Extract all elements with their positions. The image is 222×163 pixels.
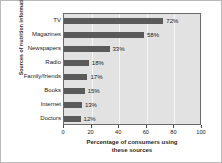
x-axis-title-line-2: these sources: [49, 146, 215, 154]
x-axis-tick: [91, 125, 92, 128]
x-axis-tick: [146, 125, 147, 128]
category-label: Newspapers: [9, 45, 61, 51]
category-label: Magazines: [9, 31, 61, 37]
bar: [64, 88, 85, 94]
bar: [64, 32, 144, 38]
x-axis-tick-label: 60: [143, 129, 149, 135]
bar: [64, 116, 81, 122]
x-axis: 020406080100: [63, 125, 201, 139]
x-axis-tick-label: 20: [87, 129, 93, 135]
bar-value-label: 18%: [92, 60, 104, 66]
x-axis-tick-label: 80: [170, 129, 176, 135]
x-axis-title-line-1: Percentage of consumers using: [49, 138, 215, 146]
x-axis-tick-label: 100: [196, 129, 205, 135]
category-label: TV: [9, 17, 61, 23]
bar: [64, 60, 89, 66]
x-axis-tick: [201, 125, 202, 128]
bar-value-label: 13%: [85, 102, 97, 108]
bar: [64, 18, 163, 24]
bar-value-label: 15%: [88, 88, 100, 94]
x-axis-title: Percentage of consumers using these sour…: [49, 138, 215, 154]
bar-value-label: 33%: [113, 46, 125, 52]
gridline: [174, 14, 175, 124]
bar-value-label: 72%: [166, 18, 178, 24]
category-label: Internet: [9, 101, 61, 107]
x-axis-tick-label: 40: [115, 129, 121, 135]
category-label: Books: [9, 87, 61, 93]
x-axis-tick: [173, 125, 174, 128]
category-label: Doctors: [9, 115, 61, 121]
y-axis-category-labels: TVMagazinesNewspapersRadioFamily/friends…: [9, 13, 61, 125]
bar-value-label: 17%: [90, 74, 102, 80]
plot-area: 72%58%33%18%17%15%13%12%: [63, 13, 201, 125]
bar: [64, 74, 87, 80]
gridline: [119, 14, 120, 124]
bar: [64, 102, 82, 108]
x-axis-tick-label: 0: [61, 129, 64, 135]
x-axis-tick: [63, 125, 64, 128]
bar-chart-figure: Sources of nutrition information TVMagaz…: [0, 0, 222, 163]
gridline: [147, 14, 148, 124]
bar-value-label: 12%: [84, 116, 96, 122]
x-axis-tick: [118, 125, 119, 128]
bar-value-label: 58%: [147, 32, 159, 38]
category-label: Family/friends: [9, 73, 61, 79]
category-label: Radio: [9, 59, 61, 65]
bar: [64, 46, 110, 52]
